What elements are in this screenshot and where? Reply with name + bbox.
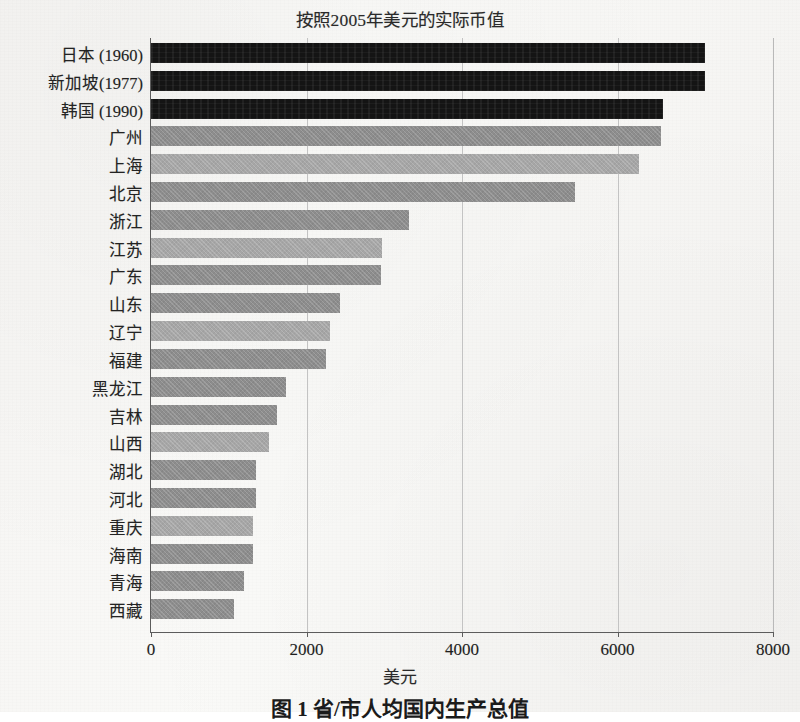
bar-10 — [151, 321, 330, 341]
bar-20 — [151, 599, 234, 619]
bar-11 — [151, 349, 326, 369]
chart-title: 按照2005年美元的实际币值 — [0, 6, 800, 31]
x-tick-label-4000: 4000 — [445, 640, 479, 660]
table-row — [151, 182, 575, 202]
plot-area: 02000400060008000 — [150, 38, 773, 633]
category-label: 日本 (1960) — [0, 42, 143, 66]
bar-0 — [151, 43, 705, 63]
bar-8 — [151, 265, 381, 285]
category-label: 上海 — [0, 153, 143, 177]
x-tick-mark-0 — [151, 632, 152, 637]
table-row — [151, 599, 234, 619]
category-label: 山西 — [0, 431, 143, 455]
category-label: 河北 — [0, 487, 143, 511]
bar-4 — [151, 154, 639, 174]
table-row — [151, 405, 277, 425]
figure-caption: 图 1 省/市人均国内生产总值 — [0, 692, 800, 722]
bar-1 — [151, 71, 705, 91]
x-tick-mark-6000 — [618, 632, 619, 637]
plot-right-border — [773, 38, 774, 632]
table-row — [151, 488, 256, 508]
category-label: 海南 — [0, 543, 143, 567]
bar-6 — [151, 210, 409, 230]
bar-15 — [151, 460, 256, 480]
table-row — [151, 154, 639, 174]
table-row — [151, 377, 286, 397]
x-tick-mark-8000 — [773, 632, 774, 637]
category-label: 重庆 — [0, 515, 143, 539]
x-tick-mark-2000 — [307, 632, 308, 637]
category-label: 湖北 — [0, 459, 143, 483]
bar-2 — [151, 99, 663, 119]
bar-19 — [151, 571, 244, 591]
category-label: 辽宁 — [0, 320, 143, 344]
category-label: 青海 — [0, 570, 143, 594]
category-label: 韩国 (1990) — [0, 98, 143, 122]
bar-14 — [151, 432, 269, 452]
table-row — [151, 71, 705, 91]
table-row — [151, 544, 253, 564]
table-row — [151, 321, 330, 341]
x-tick-mark-4000 — [462, 632, 463, 637]
x-tick-label-6000: 6000 — [601, 640, 635, 660]
bar-13 — [151, 405, 277, 425]
x-axis-title: 美元 — [0, 663, 800, 688]
table-row — [151, 293, 340, 313]
bar-7 — [151, 238, 382, 258]
table-row — [151, 238, 382, 258]
table-row — [151, 516, 253, 536]
bar-9 — [151, 293, 340, 313]
table-row — [151, 571, 244, 591]
table-row — [151, 349, 326, 369]
x-tick-label-2000: 2000 — [290, 640, 324, 660]
table-row — [151, 460, 256, 480]
category-label: 广州 — [0, 125, 143, 149]
table-row — [151, 265, 381, 285]
table-row — [151, 99, 663, 119]
bar-18 — [151, 544, 253, 564]
bar-3 — [151, 126, 661, 146]
category-label: 浙江 — [0, 209, 143, 233]
category-label: 福建 — [0, 348, 143, 372]
category-label: 广东 — [0, 264, 143, 288]
table-row — [151, 210, 409, 230]
category-label: 江苏 — [0, 237, 143, 261]
bar-16 — [151, 488, 256, 508]
bar-17 — [151, 516, 253, 536]
category-label: 黑龙江 — [0, 376, 143, 400]
category-label: 西藏 — [0, 598, 143, 622]
x-tick-label-8000: 8000 — [756, 640, 790, 660]
bar-12 — [151, 377, 286, 397]
category-label: 北京 — [0, 181, 143, 205]
table-row — [151, 43, 705, 63]
bar-5 — [151, 182, 575, 202]
category-label: 山东 — [0, 292, 143, 316]
category-label: 新加坡(1977) — [0, 70, 143, 94]
x-tick-label-0: 0 — [147, 640, 156, 660]
category-label: 吉林 — [0, 404, 143, 428]
table-row — [151, 126, 661, 146]
table-row — [151, 432, 269, 452]
